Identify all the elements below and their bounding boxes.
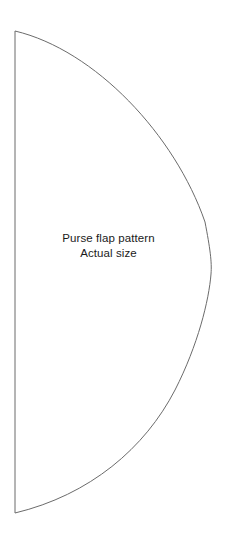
- pattern-sheet: Purse flap pattern Actual size: [0, 0, 231, 540]
- pattern-outline-drawing: [0, 0, 231, 540]
- purse-flap-outline-path: [15, 31, 211, 513]
